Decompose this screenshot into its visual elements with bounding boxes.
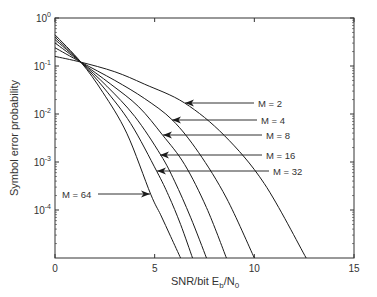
x-axis-label: SNR/bit Eb/N0 [171,275,240,290]
curve-m64 [55,35,181,258]
x-tick-label: 5 [152,263,158,274]
annotation-m64: M = 64 [62,189,150,200]
y-tick-label: 10-4 [34,203,51,216]
y-tick-label: 10-1 [34,59,51,72]
curve-m16 [55,40,206,258]
annotation-label: M = 16 [266,150,295,161]
annotation-label: M = 2 [258,98,282,109]
curve-m8 [55,43,226,258]
y-axis-label: Symbol error probability [8,79,20,196]
annotation-label: M = 8 [266,130,290,141]
annotation-label: M = 64 [62,189,91,200]
y-tick-label: 10-2 [34,107,51,120]
curve-m32 [55,37,193,258]
y-tick-label: 100 [36,11,51,24]
curves [55,35,306,258]
y-tick-label: 10-3 [34,155,51,168]
annotation-m4: M = 4 [172,115,285,126]
plot-frame [55,18,354,258]
axes: 05101510010-110-210-310-4 [34,11,360,274]
annotation-label: M = 4 [261,115,285,126]
x-tick-label: 15 [348,263,360,274]
x-tick-label: 0 [52,263,58,274]
symbol-error-probability-chart: 05101510010-110-210-310-4 M = 2M = 4M = … [0,0,377,297]
annotation-m32: M = 32 [157,166,302,177]
annotations: M = 2M = 4M = 8M = 16M = 32M = 64 [62,98,302,200]
curve-m4 [55,48,254,258]
annotation-m2: M = 2 [185,98,282,109]
x-tick-label: 10 [249,263,261,274]
annotation-m16: M = 16 [160,150,295,161]
annotation-label: M = 32 [273,166,302,177]
